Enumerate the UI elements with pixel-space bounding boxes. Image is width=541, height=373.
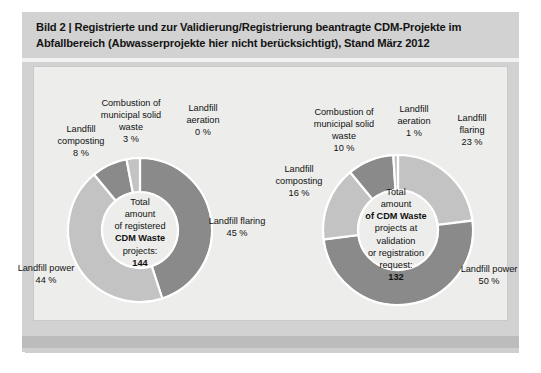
figure-caption: Bild 2 | Registrierte und zur Validierun…: [36, 20, 505, 52]
card-footer-shadow: [25, 348, 519, 353]
figure-container: Bild 2 | Registrierte und zur Validierun…: [0, 0, 541, 373]
card-footer-bar: [22, 336, 519, 348]
chart-panel: [33, 66, 508, 321]
caption-divider: [22, 58, 519, 62]
figure-caption-band: Bild 2 | Registrierte und zur Validierun…: [22, 12, 519, 60]
